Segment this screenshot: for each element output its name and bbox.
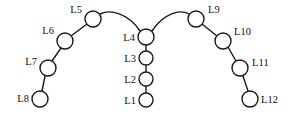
link-l11-l12 [243,76,248,91]
node-label-l8: L8 [17,93,29,104]
node-l2[interactable] [139,72,153,86]
node-label-l5: L5 [70,4,82,15]
node-label-l3: L3 [124,53,136,64]
node-label-l9: L9 [208,4,220,15]
nodes-group [32,11,258,107]
node-label-l6: L6 [42,25,54,36]
node-l9[interactable] [188,11,204,27]
node-label-l7: L7 [25,56,37,67]
node-label-l12: L12 [261,94,278,105]
node-l4[interactable] [138,29,154,45]
link-l4-l5 [100,12,140,31]
node-l5[interactable] [85,11,101,27]
node-label-l11: L11 [252,57,269,68]
node-l12[interactable] [242,91,258,107]
chain-diagram: L1L2L3L4L5L6L7L8L9L10L11L12 [0,0,291,116]
link-l6-l7 [52,48,61,61]
chain-diagram-canvas: L1L2L3L4L5L6L7L8L9L10L11L12 [0,0,291,116]
link-l10-l11 [228,47,236,61]
node-label-l10: L10 [234,26,251,37]
node-l11[interactable] [232,60,248,76]
node-l3[interactable] [139,51,153,65]
node-l6[interactable] [57,33,73,49]
link-l7-l8 [42,76,45,91]
node-l1[interactable] [139,93,153,107]
node-l7[interactable] [40,60,56,76]
link-l9-l10 [202,24,217,36]
node-label-l1: L1 [124,95,136,106]
node-l8[interactable] [32,91,48,107]
node-label-l4: L4 [123,32,136,43]
node-label-l2: L2 [124,74,136,85]
link-l4-l9 [152,12,189,31]
link-l5-l6 [71,24,87,36]
node-l10[interactable] [215,33,231,49]
